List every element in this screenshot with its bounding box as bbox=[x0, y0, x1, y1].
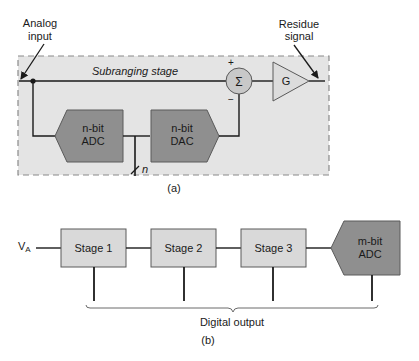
dac-label-2: DAC bbox=[170, 135, 193, 147]
stage-2-block: Stage 2 bbox=[151, 229, 216, 267]
residue-signal-label: Residue bbox=[279, 18, 319, 30]
adc-label-1: n-bit bbox=[82, 122, 103, 134]
summer-minus-sign: − bbox=[228, 94, 234, 105]
n-bit-dac-block: n-bit DAC bbox=[151, 110, 219, 162]
summer-plus-sign: + bbox=[228, 57, 234, 68]
gain-label: G bbox=[282, 75, 291, 87]
bus-width-label: n bbox=[142, 163, 148, 175]
stage-1-label: Stage 1 bbox=[75, 242, 113, 254]
stage-1-block: Stage 1 bbox=[61, 229, 126, 267]
stage-3-label: Stage 3 bbox=[255, 242, 293, 254]
va-input-label: VA bbox=[18, 240, 31, 254]
m-bit-adc-block: m-bit ADC bbox=[331, 221, 400, 275]
diagram-canvas: Analog input Residue signal Subranging s… bbox=[0, 0, 419, 361]
analog-input-label: Analog bbox=[23, 17, 57, 29]
n-bit-adc-block: n-bit ADC bbox=[55, 110, 123, 162]
digital-output-brace bbox=[86, 305, 378, 312]
dac-label-1: n-bit bbox=[171, 122, 192, 134]
subranging-stage-title: Subranging stage bbox=[92, 65, 178, 77]
summer-symbol: Σ bbox=[235, 75, 242, 89]
m-bit-adc-label-1: m-bit bbox=[358, 235, 382, 247]
adc-label-2: ADC bbox=[81, 135, 104, 147]
analog-input-label-2: input bbox=[28, 30, 52, 42]
m-bit-adc-label-2: ADC bbox=[358, 248, 381, 260]
digital-output-label: Digital output bbox=[200, 316, 264, 328]
stage-2-label: Stage 2 bbox=[165, 242, 203, 254]
figure-b-caption: (b) bbox=[201, 334, 214, 346]
figure-b: VA Stage 1 Stage 2 Stage 3 m-bit ADC bbox=[18, 221, 400, 346]
va-subscript: A bbox=[25, 245, 31, 254]
figure-a-caption: (a) bbox=[167, 182, 180, 194]
figure-a: Analog input Residue signal Subranging s… bbox=[18, 17, 329, 194]
stage-3-block: Stage 3 bbox=[241, 229, 306, 267]
residue-signal-label-2: signal bbox=[285, 30, 314, 42]
